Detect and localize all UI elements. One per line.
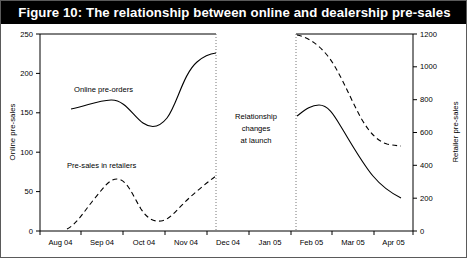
- right-tick-1200: 1200: [420, 30, 437, 39]
- annotation-pre-sales-in-retailers: Pre-sales in retailers: [67, 161, 136, 170]
- annotation-relationship-line1: Relationship: [235, 112, 277, 121]
- figure-title: Figure 10: The relationship between onli…: [1, 1, 467, 24]
- left-axis-title: Online pre-sales: [8, 104, 17, 161]
- x-label-jan-05: Jan 05: [259, 238, 282, 247]
- annotation-online-pre-orders: Online pre-orders: [74, 85, 133, 94]
- right-tick-0: 0: [420, 227, 424, 236]
- right-axis-title: Retailer pre-sales: [451, 101, 460, 162]
- right-tick-200: 200: [420, 194, 433, 203]
- x-label-mar-05: Mar 05: [341, 238, 365, 247]
- x-label-nov-04: Nov 04: [174, 238, 198, 247]
- figure-container: Figure 10: The relationship between onli…: [0, 0, 467, 258]
- series-pre-sales-in-retailers-left: [67, 176, 216, 229]
- annotation-relationship-line3: at launch: [241, 136, 272, 145]
- left-axis-ticks: [36, 34, 40, 231]
- x-axis-ticks: [40, 231, 413, 235]
- series-pre-sales-in-retailers-right: [297, 35, 401, 146]
- annotation-relationship-line2: changes: [242, 124, 271, 133]
- x-label-aug-04: Aug 04: [48, 238, 72, 247]
- x-label-sep-04: Sep 04: [90, 238, 114, 247]
- x-label-dec-04: Dec 04: [216, 238, 240, 247]
- series-online-pre-orders-right: [297, 105, 401, 198]
- right-axis-ticks: [413, 34, 417, 231]
- left-tick-250: 250: [20, 30, 33, 39]
- left-tick-200: 200: [20, 69, 33, 78]
- right-tick-1000: 1000: [420, 62, 437, 71]
- left-tick-50: 50: [25, 187, 33, 196]
- chart-svg: 250 200 150 100 50 0 Online pre-sales 12…: [1, 24, 467, 258]
- right-tick-600: 600: [420, 128, 433, 137]
- left-tick-150: 150: [20, 108, 33, 117]
- right-tick-800: 800: [420, 95, 433, 104]
- x-label-oct-04: Oct 04: [133, 238, 155, 247]
- chart-plot-area: 250 200 150 100 50 0 Online pre-sales 12…: [1, 24, 467, 258]
- right-tick-400: 400: [420, 161, 433, 170]
- x-label-feb-05: Feb 05: [300, 238, 324, 247]
- x-label-apr-05: Apr 05: [382, 238, 404, 247]
- left-tick-0: 0: [29, 227, 33, 236]
- left-tick-100: 100: [20, 148, 33, 157]
